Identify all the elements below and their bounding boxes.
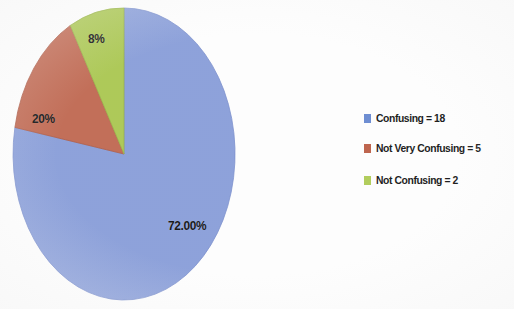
pie-chart-figure: 72.00% 20% 8% Confusing = 18 Not Very Co… <box>0 0 514 309</box>
legend-label-confusing: Confusing = 18 <box>376 112 445 124</box>
legend-item-not-very-confusing[interactable]: Not Very Confusing = 5 <box>364 142 492 154</box>
legend-swatch-icon-not-very-confusing <box>364 144 371 153</box>
slice-label-not-confusing: 8% <box>88 31 104 46</box>
slice-label-not-very-confusing: 20% <box>32 111 55 126</box>
pie-chart-svg <box>0 0 350 309</box>
legend-swatch-icon-confusing <box>364 114 371 123</box>
chart-legend: Confusing = 18 Not Very Confusing = 5 No… <box>364 108 514 204</box>
legend-item-confusing[interactable]: Confusing = 18 <box>364 112 452 124</box>
slice-label-confusing: 72.00% <box>168 218 206 233</box>
legend-item-not-confusing[interactable]: Not Confusing = 2 <box>364 174 467 186</box>
legend-label-not-very-confusing: Not Very Confusing = 5 <box>376 142 481 154</box>
pie-plot-area: 72.00% 20% 8% <box>0 0 350 309</box>
legend-label-not-confusing: Not Confusing = 2 <box>376 174 458 186</box>
legend-swatch-icon-not-confusing <box>364 176 371 185</box>
